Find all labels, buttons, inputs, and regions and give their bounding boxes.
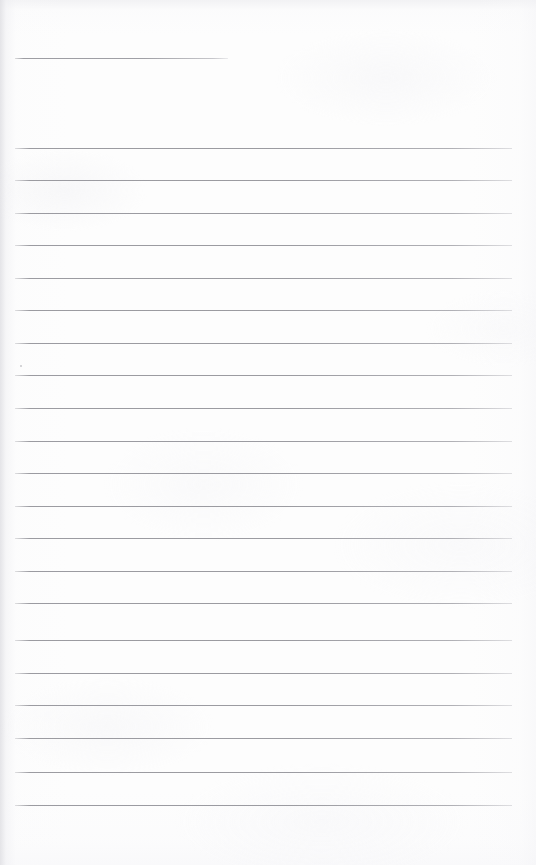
ruled-line [15, 310, 512, 311]
ruled-line [15, 673, 512, 674]
ruled-line [15, 375, 512, 376]
ruled-line [15, 180, 512, 181]
notebook-page [0, 0, 536, 865]
ruled-line [15, 738, 512, 739]
ruled-line [15, 772, 512, 773]
ruled-line [15, 245, 512, 246]
ruled-line [15, 148, 512, 149]
ruled-line [15, 408, 512, 409]
heading-rule [15, 58, 228, 59]
ruled-line [15, 805, 512, 806]
ruled-line [15, 705, 512, 706]
paper-grain-texture [0, 0, 536, 865]
ruled-line [15, 506, 512, 507]
scan-speck-icon [20, 365, 22, 367]
ruled-line [15, 343, 512, 344]
ruled-line [15, 538, 512, 539]
ruled-line [15, 640, 512, 641]
ruled-line [15, 441, 512, 442]
ruled-line [15, 473, 512, 474]
ruled-line [15, 278, 512, 279]
ruled-line [15, 213, 512, 214]
ruled-line [15, 571, 512, 572]
ruled-line [15, 603, 512, 604]
